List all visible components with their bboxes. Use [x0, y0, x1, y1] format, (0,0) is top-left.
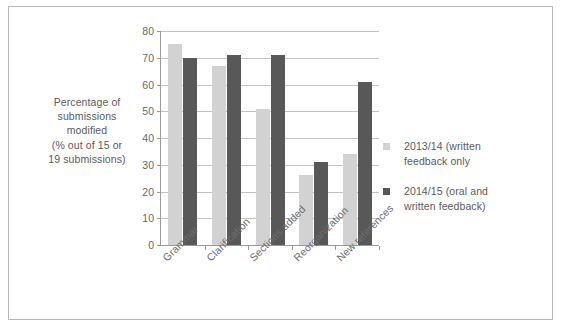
y-tick-mark-20: [157, 192, 161, 193]
legend-label-series-2: 2014/15 (oral and written feedback): [404, 184, 543, 213]
y-tick-mark-70: [157, 58, 161, 59]
y-tick-label-50: 50: [142, 106, 154, 117]
y-tick-label-60: 60: [142, 79, 154, 90]
y-axis-title-line-3: modified: [31, 123, 143, 137]
y-tick-mark-10: [157, 218, 161, 219]
y-tick-label-40: 40: [142, 133, 154, 144]
legend-label-series-1-line-1: 2013/14 (written: [404, 139, 543, 154]
legend-item-2014-15[interactable]: 2014/15 (oral and written feedback): [383, 184, 543, 213]
bar[interactable]: [168, 44, 182, 245]
bar-group: [212, 31, 241, 245]
bar[interactable]: [343, 154, 357, 245]
y-tick-label-10: 10: [142, 213, 154, 224]
x-tick-mark: [379, 246, 380, 250]
legend-swatch-icon-series-2: [383, 188, 390, 195]
legend-item-2013-14[interactable]: 2013/14 (written feedback only: [383, 139, 543, 168]
bar[interactable]: [183, 58, 197, 245]
legend-label-series-1-line-2: feedback only: [404, 154, 543, 169]
y-tick-label-30: 30: [142, 160, 154, 171]
y-axis-title-line-5: 19 submissions): [31, 152, 143, 166]
bar[interactable]: [271, 55, 285, 245]
y-tick-mark-50: [157, 111, 161, 112]
bar-group: [168, 31, 197, 245]
y-axis-title-line-2: submissions: [31, 109, 143, 123]
y-tick-mark-30: [157, 165, 161, 166]
x-axis-category-labels: GrammarClarificationSections addedReorga…: [160, 255, 390, 325]
y-axis-title: Percentage of submissions modified (% ou…: [31, 95, 143, 166]
y-tick-label-70: 70: [142, 53, 154, 64]
y-tick-mark-80: [157, 31, 161, 32]
legend-swatch-icon-series-1: [383, 143, 390, 150]
chart-legend: 2013/14 (written feedback only 2014/15 (…: [383, 139, 543, 229]
legend-label-series-2-line-1: 2014/15 (oral and: [404, 184, 543, 199]
bar-group: [256, 31, 285, 245]
x-tick-mark: [335, 246, 336, 250]
bar[interactable]: [256, 109, 270, 245]
x-tick-mark: [248, 246, 249, 250]
y-tick-label-80: 80: [142, 26, 154, 37]
y-tick-label-0: 0: [148, 240, 154, 251]
y-axis-tick-labels: 01020304050607080: [128, 21, 154, 245]
legend-label-series-1: 2013/14 (written feedback only: [404, 139, 543, 168]
y-tick-label-20: 20: [142, 186, 154, 197]
y-axis-title-line-4: (% out of 15 or: [31, 138, 143, 152]
y-tick-mark-60: [157, 85, 161, 86]
bar[interactable]: [227, 55, 241, 245]
legend-label-series-2-line-2: written feedback): [404, 199, 543, 214]
y-axis-title-line-1: Percentage of: [31, 95, 143, 109]
y-tick-mark-40: [157, 138, 161, 139]
bar[interactable]: [212, 66, 226, 245]
x-tick-mark: [205, 246, 206, 250]
x-tick-mark: [292, 246, 293, 250]
chart-figure-frame: Percentage of submissions modified (% ou…: [8, 6, 553, 320]
y-tick-mark-0: [157, 245, 161, 246]
